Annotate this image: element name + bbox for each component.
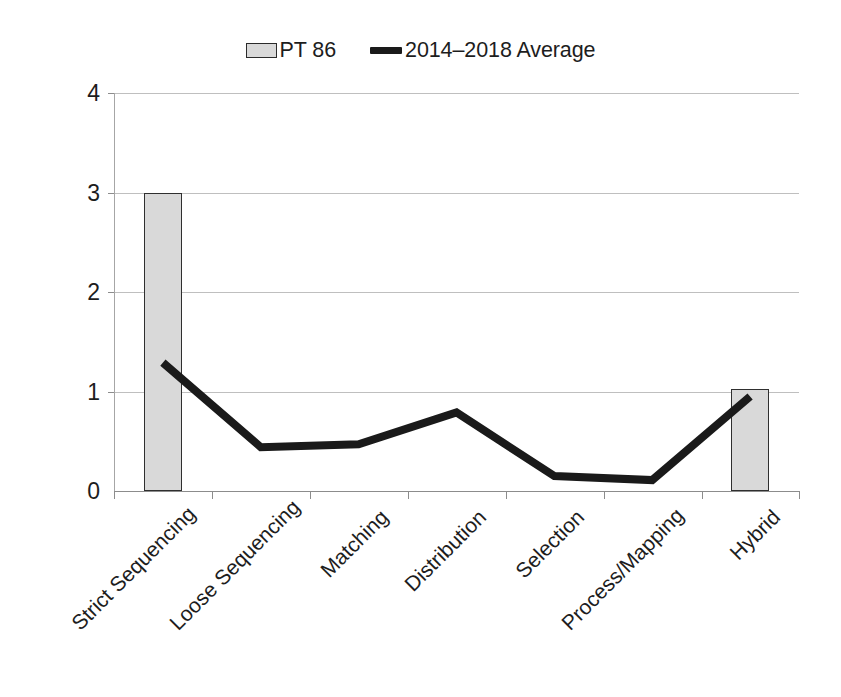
x-axis-category-labels: Strict Sequencing Loose Sequencing Match… bbox=[0, 0, 841, 697]
chart-container: PT 86 2014–2018 Average 4 3 2 1 0 bbox=[0, 0, 841, 697]
